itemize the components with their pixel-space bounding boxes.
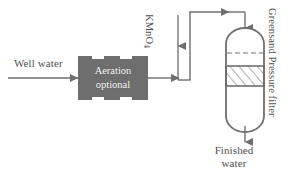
label-kmno4: KMnO4 [143, 14, 155, 48]
process-flow-diagram: Well water Aeration optional KMnO4 Green… [0, 0, 294, 178]
label-kmno4-subscript: 4 [142, 44, 151, 48]
label-finished-water: Finished water [202, 144, 266, 169]
label-finished-water-line1: Finished [202, 144, 266, 157]
label-well-water: Well water [14, 57, 63, 70]
label-aeration-line1: Aeration [82, 64, 144, 78]
label-aeration-unit: Aeration optional [82, 64, 144, 92]
greensand-pressure-filter-vessel [226, 28, 264, 132]
label-finished-water-line2: water [202, 157, 266, 170]
label-aeration-line2: optional [82, 78, 144, 92]
label-greensand-pressure-filter: Greensand Pressure filter [266, 8, 278, 117]
label-kmno4-formula: KMnO [144, 14, 155, 44]
